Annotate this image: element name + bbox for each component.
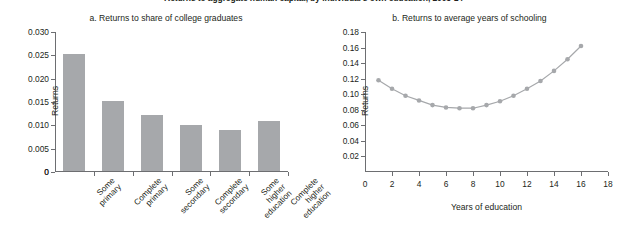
panel-a-y-tick-label: 0.015 <box>28 97 49 107</box>
panel-b-x-tick-label: 8 <box>471 179 476 189</box>
bar <box>258 121 280 171</box>
data-point-marker <box>511 93 516 98</box>
tick-mark <box>51 149 55 150</box>
tick-mark <box>473 172 474 176</box>
data-point-marker <box>498 99 503 104</box>
tick-mark <box>51 32 55 33</box>
line-path <box>379 46 582 108</box>
panel-b-y-tick-label: 0.16 <box>343 43 359 53</box>
panel-a-category-label: Somesecondary <box>172 176 212 216</box>
data-point-marker <box>390 86 395 91</box>
figure-container: Returns to aggregate human capital, by i… <box>0 0 627 241</box>
panel-a-category-label: Someprimary <box>91 176 123 208</box>
bar <box>102 101 124 171</box>
panel-a-y-tick-label: 0.005 <box>28 144 49 154</box>
panel-a-category-label: Somehighereducation <box>249 176 294 221</box>
tick-mark <box>500 172 501 176</box>
panel-a-category-label: Completeprimary <box>133 176 171 214</box>
data-point-marker <box>430 103 435 108</box>
tick-mark <box>94 172 95 176</box>
tick-mark <box>133 172 134 176</box>
figure-main-title: Returns to aggregate human capital, by i… <box>0 0 627 3</box>
bar <box>141 115 163 171</box>
panel-a-y-tick-label: 0.025 <box>28 50 49 60</box>
panel-b-x-tick-label: 10 <box>495 179 504 189</box>
tick-mark <box>249 172 250 176</box>
panel-b-y-tick-label: 0.02 <box>343 151 359 161</box>
panel-b-x-tick-label: 0 <box>363 179 368 189</box>
tick-mark <box>446 172 447 176</box>
data-point-marker <box>579 44 584 49</box>
panel-b-y-tick-label: 0.08 <box>343 105 359 115</box>
panel-a-y-axis-title: Returns <box>50 71 60 131</box>
data-point-marker <box>457 106 462 111</box>
panel-b-x-tick-label: 18 <box>603 179 612 189</box>
panel-a-title: a. Returns to share of college graduates <box>0 13 312 23</box>
panel-b-x-tick-label: 14 <box>549 179 558 189</box>
tick-mark <box>419 172 420 176</box>
tick-mark <box>51 55 55 56</box>
data-point-marker <box>525 86 530 91</box>
tick-mark <box>554 172 555 176</box>
panel-a-y-tick-label: 0.020 <box>28 74 49 84</box>
panel-b-y-tick-label: 0.18 <box>343 27 359 37</box>
panel-a-category-label: Completesecondary <box>211 176 251 216</box>
panel-b-line-series <box>365 32 608 172</box>
tick-mark <box>608 172 609 176</box>
data-point-marker <box>471 106 476 111</box>
data-point-marker <box>565 57 570 62</box>
panel-b-y-tick-label: 0.04 <box>343 136 359 146</box>
data-point-marker <box>538 79 543 84</box>
tick-mark <box>581 172 582 176</box>
panel-b-title: b. Returns to average years of schooling <box>312 13 627 23</box>
panel-b-x-tick-label: 16 <box>576 179 585 189</box>
data-point-marker <box>444 105 449 110</box>
data-point-marker <box>403 93 408 98</box>
panel-b-plot-area: 0.020.040.060.080.100.120.140.160.18 024… <box>365 32 608 172</box>
panel-b-x-axis-title: Years of education <box>365 202 608 212</box>
panel-b-y-tick-label: 0.12 <box>343 74 359 84</box>
panel-a-plot-area: 00.0050.0100.0150.0200.0250.030 Someprim… <box>55 32 288 172</box>
panel-b-x-tick-label: 6 <box>444 179 449 189</box>
panel-b-line-chart: b. Returns to average years of schooling… <box>312 10 627 241</box>
panel-b-x-tick-label: 12 <box>522 179 531 189</box>
bar <box>63 54 85 171</box>
panel-a-bar-chart: a. Returns to share of college graduates… <box>0 10 312 241</box>
panel-b-y-axis-title: Returns <box>360 71 370 131</box>
panel-a-y-tick-label: 0.010 <box>28 120 49 130</box>
panel-a-zero-label: 0 <box>44 167 49 177</box>
panel-b-x-tick-label: 2 <box>390 179 395 189</box>
panel-a-y-tick-label: 0.030 <box>28 27 49 37</box>
tick-mark <box>392 172 393 176</box>
tick-mark <box>288 172 289 176</box>
bar <box>180 125 202 171</box>
data-point-marker <box>376 78 381 83</box>
panel-b-y-tick-label: 0.06 <box>343 120 359 130</box>
data-point-marker <box>484 103 489 108</box>
tick-mark <box>527 172 528 176</box>
panel-b-y-tick-label: 0.14 <box>343 58 359 68</box>
panel-b-x-tick-label: 4 <box>417 179 422 189</box>
panel-b-y-tick-label: 0.10 <box>343 89 359 99</box>
tick-mark <box>210 172 211 176</box>
bar <box>219 130 241 171</box>
data-point-marker <box>552 69 557 74</box>
tick-mark <box>51 172 55 173</box>
tick-mark <box>172 172 173 176</box>
data-point-marker <box>417 98 422 103</box>
